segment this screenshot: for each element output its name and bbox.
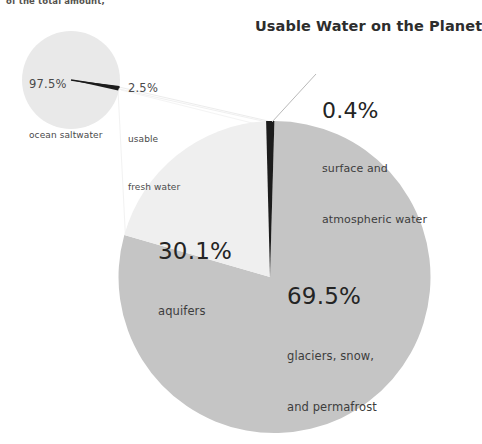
small-pie-percent-ocean-saltwater: 97.5% (29, 78, 102, 92)
main-pie-label-aquifers: 30.1% aquifers (158, 200, 232, 356)
main-pie-percent-surface-atmospheric-water: 0.4% (322, 98, 427, 124)
main-pie-desc-surface-atmospheric-water-line2: atmospheric water (322, 214, 427, 227)
small-pie-desc-usable-fresh-water-line2: fresh water (128, 182, 180, 193)
small-pie-desc-ocean-saltwater: ocean saltwater (29, 130, 102, 141)
main-pie-label-surface-atmospheric-water: 0.4% surface and atmospheric water (322, 60, 427, 265)
main-pie-desc-surface-atmospheric-water-line1: surface and (322, 163, 427, 176)
main-pie-desc-glaciers-line1: glaciers, snow, (287, 350, 377, 364)
main-pie-desc-aquifers-line1: aquifers (158, 305, 232, 319)
main-pie-percent-aquifers: 30.1% (158, 238, 232, 265)
small-pie-label-ocean-saltwater: 97.5% ocean saltwater (29, 40, 102, 178)
cropped-caption: of the total amount, (6, 0, 105, 6)
small-pie-percent-usable-fresh-water: 2.5% (128, 82, 180, 96)
surface-water-leader-line (272, 74, 316, 122)
main-pie-label-glaciers-snow-permafrost: 69.5% glaciers, snow, and permafrost (287, 245, 377, 444)
main-pie-percent-glaciers-snow-permafrost: 69.5% (287, 283, 377, 310)
main-pie-desc-glaciers-line2: and permafrost (287, 401, 377, 415)
chart-title: Usable Water on the Planet (255, 18, 482, 35)
small-pie-desc-usable-fresh-water-line1: usable (128, 134, 180, 145)
